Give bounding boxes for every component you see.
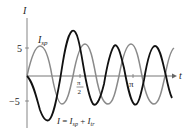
- x-tick-label-pi-half-num: π: [77, 79, 81, 87]
- y-axis-label: I: [22, 5, 27, 16]
- x-tick-label-pi-half-den: 2: [78, 88, 82, 96]
- y-tick-label-neg5: −5: [9, 96, 20, 107]
- y-tick-label-5: 5: [17, 43, 22, 54]
- isp-label: Isp: [37, 34, 48, 47]
- x-tick-label-pi: π: [129, 79, 134, 89]
- total-current-label: I = Isp + Itr: [56, 116, 95, 127]
- current-vs-time-chart: I t 5 −5 π 2 π Isp I = Isp + Itr: [0, 0, 187, 135]
- x-axis-arrow-icon: [172, 74, 177, 79]
- x-axis-label: t: [179, 70, 182, 81]
